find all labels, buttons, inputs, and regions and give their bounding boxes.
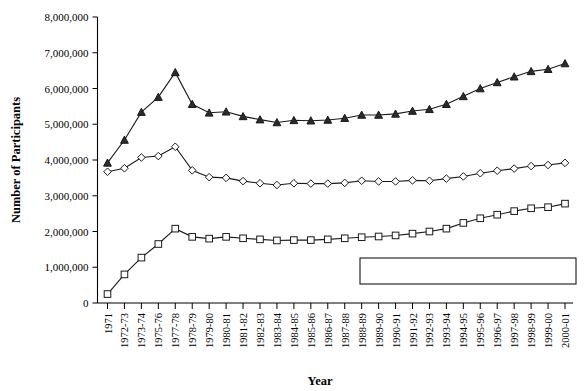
data-point-marker (392, 232, 399, 239)
data-point-marker (476, 169, 484, 177)
x-axis-tick-label: 1973-74 (136, 312, 147, 348)
data-point-marker (545, 204, 552, 211)
data-point-marker (121, 271, 128, 278)
data-point-marker (544, 65, 552, 72)
x-axis-tick-label: 2000-01 (560, 313, 571, 348)
x-axis-tick-label: 1975-76 (153, 313, 164, 348)
data-point-marker (409, 177, 417, 185)
x-axis-tick-label: 1993-94 (441, 312, 452, 348)
x-axis-tick-label: 1971 (103, 313, 114, 334)
data-point-marker (544, 161, 552, 169)
x-axis-tick-label: 1986-87 (323, 313, 334, 348)
x-axis-tick-label: 1996-97 (492, 313, 503, 348)
y-axis-title: Number of Participants (9, 97, 23, 223)
data-point-marker (460, 173, 468, 181)
data-point-marker (409, 230, 416, 237)
data-point-marker (274, 237, 281, 244)
data-point-marker (290, 179, 298, 187)
x-axis-tick-label: 1979-80 (204, 313, 215, 348)
data-point-marker (511, 208, 518, 215)
data-point-marker (138, 154, 146, 162)
x-axis-tick-label: 1992-93 (424, 313, 435, 348)
data-point-marker (561, 60, 569, 67)
x-axis-tick-label: 1995-96 (475, 313, 486, 348)
x-axis-tick-label: 1985-86 (306, 313, 317, 348)
data-point-marker (307, 180, 315, 188)
data-point-marker (358, 234, 365, 241)
y-axis: 01,000,0002,000,0003,000,0004,000,0005,0… (45, 11, 98, 309)
data-point-marker (257, 236, 264, 243)
x-axis-tick-label: 1977-78 (170, 313, 181, 348)
data-point-marker (341, 179, 349, 187)
x-axis-tick-label: 1978-79 (187, 313, 198, 348)
data-point-marker (104, 168, 112, 176)
x-axis-title: Year (308, 374, 333, 388)
data-point-marker (493, 79, 501, 86)
data-point-marker (561, 159, 569, 167)
y-axis-tick-label: 8,000,000 (45, 11, 90, 23)
data-point-marker (154, 93, 162, 100)
data-point-marker (223, 234, 230, 241)
data-point-marker (442, 100, 450, 107)
data-point-marker (205, 173, 213, 181)
y-axis-tick-label: 0 (83, 297, 89, 309)
data-point-marker (291, 237, 298, 244)
data-point-marker (426, 177, 434, 185)
data-point-marker (443, 225, 450, 232)
x-axis-tick-label: 1988-89 (357, 313, 368, 348)
data-point-marker (171, 143, 179, 151)
series-boys (104, 143, 569, 189)
data-point-marker (358, 177, 366, 185)
x-axis: 19711972-731973-741975-761977-781978-791… (98, 303, 574, 348)
data-point-marker (308, 237, 315, 244)
y-axis-tick-label: 7,000,000 (45, 47, 90, 59)
legend-box (360, 258, 576, 284)
x-axis-tick-label: 1984-85 (289, 313, 300, 348)
y-axis-tick-label: 3,000,000 (45, 190, 90, 202)
data-point-marker (375, 233, 382, 240)
data-point-marker (239, 177, 247, 185)
series-line (108, 147, 566, 185)
y-axis-tick-label: 1,000,000 (45, 261, 90, 273)
data-point-marker (324, 236, 331, 243)
data-point-marker (189, 234, 196, 241)
data-point-marker (510, 165, 518, 173)
data-point-marker (273, 181, 281, 189)
data-point-marker (256, 179, 264, 187)
data-point-marker (493, 167, 501, 175)
x-axis-tick-label: 1991-92 (408, 313, 419, 348)
data-point-marker (562, 200, 569, 207)
x-axis-tick-label: 1987-88 (340, 313, 351, 348)
x-axis-tick-label: 1980-81 (221, 313, 232, 348)
data-point-marker (171, 69, 179, 76)
data-point-marker (206, 235, 213, 242)
x-axis-tick-label: 1982-83 (255, 313, 266, 348)
data-point-marker (476, 85, 484, 92)
x-axis-tick-label: 1981-82 (238, 313, 249, 348)
data-point-marker (375, 178, 383, 186)
data-point-marker (477, 215, 484, 222)
data-point-marker (104, 291, 111, 298)
data-point-marker (527, 162, 535, 170)
data-point-marker (324, 180, 332, 188)
chart-legend (360, 258, 576, 284)
data-point-marker (155, 152, 163, 160)
x-axis-tick-label: 1990-91 (391, 313, 402, 348)
data-point-marker (138, 254, 145, 261)
data-point-marker (121, 164, 129, 172)
y-axis-tick-label: 6,000,000 (45, 83, 90, 95)
data-point-marker (240, 235, 247, 242)
data-point-marker (443, 175, 451, 183)
data-point-marker (494, 211, 501, 218)
chart-figure: 01,000,0002,000,0003,000,0004,000,0005,0… (0, 0, 587, 391)
x-axis-tick-label: 1989-90 (374, 313, 385, 348)
x-axis-tick-label: 1983-84 (272, 312, 283, 348)
data-point-marker (188, 100, 196, 107)
x-axis-tick-label: 1997-98 (509, 313, 520, 348)
y-axis-tick-label: 4,000,000 (45, 154, 90, 166)
data-point-marker (121, 136, 129, 143)
data-point-marker (341, 235, 348, 242)
data-point-marker (392, 178, 400, 186)
data-point-marker (459, 92, 467, 99)
x-axis-tick-label: 1994-95 (458, 313, 469, 348)
